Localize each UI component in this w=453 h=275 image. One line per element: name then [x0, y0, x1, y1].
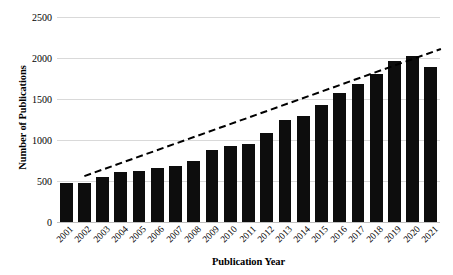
bar-2003 — [96, 177, 109, 222]
bar-2015 — [315, 105, 328, 222]
y-axis-title: Number of Publications — [17, 38, 28, 198]
x-axis-tick-labels: 2001200220032004200520062007200820092010… — [57, 224, 440, 258]
bar-2016 — [333, 93, 346, 222]
bar-2018 — [370, 74, 383, 222]
bar-2012 — [260, 133, 273, 222]
bar-2013 — [279, 120, 292, 222]
bar-2005 — [133, 171, 146, 222]
bar-2017 — [352, 84, 365, 222]
bar-2014 — [297, 116, 310, 222]
bar-2007 — [169, 166, 182, 222]
bar-2006 — [151, 168, 164, 222]
bar-2019 — [388, 61, 401, 222]
bar-2020 — [406, 56, 419, 222]
bar-2011 — [242, 144, 255, 222]
publications-bar-chart: Number of Publications 05001000150020002… — [0, 0, 453, 275]
y-tick-label-2500: 2500 — [32, 12, 52, 23]
x-axis-title: Publication Year — [57, 256, 440, 267]
bar-2021 — [424, 67, 437, 222]
y-tick-label-0: 0 — [47, 217, 52, 228]
y-tick-label-1000: 1000 — [32, 135, 52, 146]
y-tick-label-1500: 1500 — [32, 94, 52, 105]
gridline-0 — [57, 222, 440, 223]
bars-group — [57, 17, 440, 222]
bar-2008 — [187, 161, 200, 222]
plot-area: 05001000150020002500 — [57, 17, 440, 222]
bar-2002 — [78, 183, 91, 222]
bar-2010 — [224, 146, 237, 222]
y-tick-label-500: 500 — [37, 176, 52, 187]
bar-2009 — [206, 150, 219, 222]
bar-2001 — [60, 183, 73, 222]
bar-2004 — [114, 172, 127, 222]
y-tick-label-2000: 2000 — [32, 53, 52, 64]
